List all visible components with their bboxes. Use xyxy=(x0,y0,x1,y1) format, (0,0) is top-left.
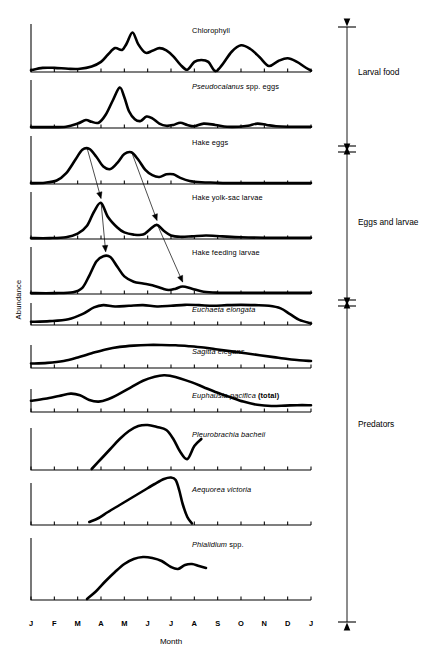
link-arrow-head xyxy=(152,214,157,221)
group-label-2: Predators xyxy=(355,418,397,430)
group-label-1: Eggs and larvae xyxy=(355,216,422,228)
month-tick-label: M xyxy=(71,619,85,628)
month-tick-label: M xyxy=(117,619,131,628)
series-title-euphausia-pacifica: Euphausia pacifica (total) xyxy=(192,391,279,400)
month-tick-label: A xyxy=(187,619,201,628)
link-arrow-line xyxy=(131,151,157,220)
x-axis-label: Month xyxy=(31,637,311,646)
link-arrow-head xyxy=(97,192,102,199)
series-title-aequorea-victoria: Aequorea victoria xyxy=(192,485,251,494)
series-title-phialidium-spp: Phialidium spp. xyxy=(192,540,244,549)
bracket-arrowhead xyxy=(344,19,351,27)
panel-axis xyxy=(31,136,311,184)
series-curve xyxy=(89,477,192,523)
month-tick-label: O xyxy=(234,619,248,628)
month-tick-label: J xyxy=(24,619,38,628)
y-axis-label: Abundance xyxy=(14,260,23,340)
series-title-pleurobrachia-bacheii: Pleurobrachia bacheii xyxy=(192,430,265,439)
link-arrow-line xyxy=(157,224,183,282)
month-tick-label: J xyxy=(304,619,318,628)
month-tick-label: F xyxy=(47,619,61,628)
series-title-hake-feeding-larvae: Hake feeding larvae xyxy=(192,248,260,257)
series-title-hake-yolk-sac-larvae: Hake yolk-sac larvae xyxy=(192,193,263,202)
panel-axis xyxy=(31,247,311,294)
bracket-arrowhead xyxy=(344,144,351,152)
panel-axis xyxy=(31,483,311,525)
link-arrow-head xyxy=(178,275,183,282)
series-curve xyxy=(92,425,202,469)
series-curve xyxy=(31,203,311,238)
series-curve xyxy=(31,148,311,183)
panel-axis xyxy=(31,192,311,239)
series-curve xyxy=(31,345,311,364)
month-tick-label: A xyxy=(94,619,108,628)
series-curve xyxy=(31,32,311,71)
series-curve xyxy=(87,557,206,599)
series-curve xyxy=(31,256,311,294)
series-title-euchaeta-elongata: Euchaeta elongata xyxy=(192,305,255,314)
month-tick-label: D xyxy=(281,619,295,628)
month-tick-label: N xyxy=(257,619,271,628)
bracket-arrowhead xyxy=(344,623,351,631)
panel-axis xyxy=(31,538,311,600)
group-label-0: Larval food xyxy=(355,66,402,78)
month-tick-label: J xyxy=(141,619,155,628)
bracket-arrowhead xyxy=(344,298,351,306)
series-title-hake-eggs: Hake eggs xyxy=(192,138,228,147)
series-curve xyxy=(31,305,311,324)
month-tick-label: S xyxy=(211,619,225,628)
series-title-sagitta-elegans: Sagitta elegans xyxy=(192,347,244,356)
series-title-chlorophyll: Chlorophyll xyxy=(192,26,230,35)
series-title-pseudocalanus: Pseudocalanus spp. eggs xyxy=(192,82,279,91)
month-tick-label: J xyxy=(164,619,178,628)
link-arrow-head xyxy=(102,245,107,251)
series-curve xyxy=(31,87,311,127)
